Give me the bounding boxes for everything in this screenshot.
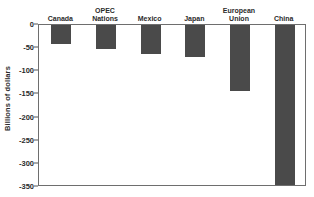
y-axis-tick-label: -300: [19, 158, 34, 167]
y-axis-tick-mark: [34, 116, 38, 117]
x-axis-category-label: Japan: [184, 15, 204, 23]
plot-inner: [39, 25, 305, 185]
y-axis-tick-mark: [34, 139, 38, 140]
bar: [275, 25, 295, 185]
y-axis-tick-mark: [34, 93, 38, 94]
y-axis-tick-label: -50: [23, 43, 34, 52]
y-axis-tick-mark: [34, 70, 38, 71]
y-axis-tick-label: -250: [19, 135, 34, 144]
y-axis-tick-label: -350: [19, 182, 34, 191]
bar: [96, 25, 116, 49]
bar: [141, 25, 161, 54]
y-axis-title-text: Billions of dollars: [3, 66, 12, 131]
y-axis-tick-mark: [34, 24, 38, 25]
x-axis-category-label: Mexico: [138, 15, 162, 23]
y-axis-tick-mark: [34, 162, 38, 163]
y-axis-tick-labels: 0-50-100-150-200-250-300-350: [12, 0, 34, 197]
x-axis-category-label: Canada: [48, 15, 73, 23]
x-axis-category-label: China: [274, 15, 293, 23]
y-axis-tick-label: -150: [19, 89, 34, 98]
plot-area: [38, 24, 306, 186]
x-axis-category-label: European Union: [223, 7, 255, 23]
chart-figure: Billions of dollars 0-50-100-150-200-250…: [0, 0, 314, 197]
x-axis-category-labels: CanadaOPEC NationsMexicoJapanEuropean Un…: [38, 0, 306, 24]
y-axis-tick-mark: [34, 186, 38, 187]
y-axis-tick-label: -200: [19, 112, 34, 121]
bar: [230, 25, 250, 91]
x-axis-category-label: OPEC Nations: [92, 7, 118, 23]
bar: [51, 25, 71, 44]
y-axis-tick-label: -100: [19, 66, 34, 75]
y-axis-tick-mark: [34, 47, 38, 48]
bar: [185, 25, 205, 57]
